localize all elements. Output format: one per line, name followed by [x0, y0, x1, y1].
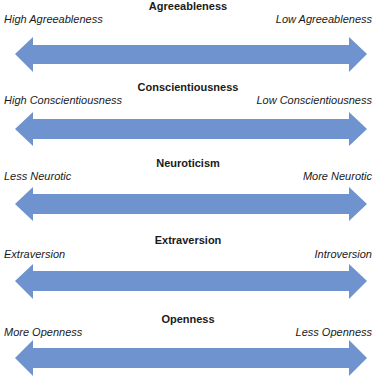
dimension-title: Conscientiousness [0, 81, 376, 94]
dimension-agreeableness: Agreeableness High Agreeableness Low Agr… [0, 0, 376, 76]
left-pole-label: High Conscientiousness [4, 94, 122, 107]
dimension-title: Extraversion [0, 234, 376, 247]
left-pole-label: High Agreeableness [4, 13, 103, 26]
dimension-title: Neuroticism [0, 157, 376, 170]
left-pole-label: More Openness [4, 326, 82, 339]
right-pole-label: Low Conscientiousness [256, 94, 372, 107]
right-pole-label: Introversion [315, 248, 372, 261]
double-arrow-icon [0, 36, 376, 76]
left-pole-label: Extraversion [4, 248, 65, 261]
dimension-extraversion: Extraversion Extraversion Introversion [0, 228, 376, 304]
right-pole-label: More Neurotic [303, 170, 372, 183]
right-pole-label: Low Agreeableness [276, 13, 372, 26]
double-arrow-icon [0, 111, 376, 151]
dimension-neuroticism: Neuroticism Less Neurotic More Neurotic [0, 152, 376, 228]
dimension-title: Agreeableness [0, 0, 376, 13]
left-pole-label: Less Neurotic [4, 170, 71, 183]
double-arrow-icon [0, 263, 376, 303]
double-arrow-icon [0, 340, 376, 380]
double-arrow-icon [0, 186, 376, 226]
right-pole-label: Less Openness [296, 326, 372, 339]
dimension-openness: Openness More Openness Less Openness [0, 304, 376, 383]
dimension-conscientiousness: Conscientiousness High Conscientiousness… [0, 76, 376, 152]
dimension-title: Openness [0, 313, 376, 326]
